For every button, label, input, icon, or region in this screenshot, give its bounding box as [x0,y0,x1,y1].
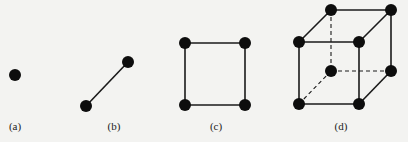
vertex-node [293,98,305,110]
panel-label-a: (a) [9,120,21,132]
vertex-node [325,4,337,16]
edge [359,71,391,104]
vertex-node [353,36,365,48]
panel-a [9,69,21,81]
edge [86,62,128,106]
panel-label-b: (b) [108,120,121,132]
vertex-node [122,56,134,68]
edge [359,10,391,42]
vertex-node [325,65,337,77]
hypercube-figure: (a) (b) (c) (d) [0,0,408,142]
vertex-node [385,65,397,77]
panel-d [293,4,397,110]
vertex-node [385,4,397,16]
vertex-node [353,98,365,110]
edge [299,10,331,42]
vertex-node [179,37,191,49]
panel-b [80,56,134,112]
vertex-node [80,100,92,112]
panel-label-c: (c) [210,120,222,132]
panel-c [179,37,251,111]
vertex-node [239,99,251,111]
panel-label-d: (d) [335,120,348,132]
vertex-node [239,37,251,49]
vertex-node [179,99,191,111]
vertex-node [9,69,21,81]
hidden-edge [299,71,331,104]
vertex-node [293,36,305,48]
